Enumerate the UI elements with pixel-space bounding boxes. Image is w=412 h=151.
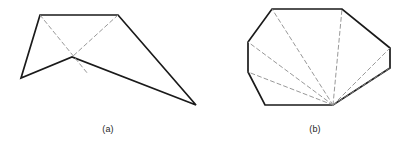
polygon-panel-a: [21, 15, 196, 105]
panel-a-caption: (a): [78, 124, 138, 134]
polygon-a-outline: [21, 15, 196, 105]
figure-container: (a) (b): [0, 0, 412, 151]
polygon-b-outline: [248, 9, 390, 105]
panel-b-caption: (b): [285, 124, 345, 134]
polygon-panel-b: [248, 9, 390, 105]
polygon-figure-svg: [0, 0, 412, 151]
